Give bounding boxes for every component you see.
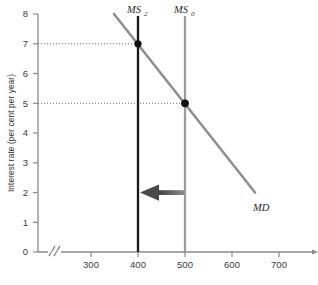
shift-arrow bbox=[140, 185, 184, 201]
guide-lines-group bbox=[38, 44, 185, 104]
y-tick-7: 7 bbox=[23, 38, 28, 49]
ms0-label: MS 0 bbox=[173, 4, 195, 18]
chart-canvas: 0 1 2 3 4 5 6 7 8 300 400 500 600 700 In bbox=[0, 0, 318, 285]
x-axis-ticks bbox=[91, 252, 279, 257]
x-tick-400: 400 bbox=[130, 259, 146, 270]
y-axis-tick-labels: 0 1 2 3 4 5 6 7 8 bbox=[23, 8, 28, 257]
y-tick-8: 8 bbox=[23, 8, 28, 19]
md-label: MD bbox=[252, 202, 270, 213]
x-axis-tick-labels: 300 400 500 600 700 bbox=[83, 259, 287, 270]
ms0-label-subscript: 0 bbox=[191, 10, 195, 18]
ms0-label-text: MS bbox=[173, 4, 189, 15]
ms2-label: MS 2 bbox=[126, 4, 148, 18]
equilibrium-point-original bbox=[181, 99, 189, 107]
x-tick-600: 600 bbox=[224, 259, 240, 270]
x-tick-300: 300 bbox=[83, 259, 99, 270]
y-tick-6: 6 bbox=[23, 68, 28, 79]
y-tick-0: 0 bbox=[23, 246, 28, 257]
x-tick-500: 500 bbox=[177, 259, 193, 270]
ms2-label-subscript: 2 bbox=[144, 10, 148, 18]
x-axis-arrowhead bbox=[312, 249, 318, 254]
ms2-label-text: MS bbox=[126, 4, 142, 15]
y-axis-ticks bbox=[33, 14, 38, 252]
axis-break-icon bbox=[48, 246, 61, 256]
y-tick-1: 1 bbox=[23, 217, 28, 228]
figure-caption-partial bbox=[4, 270, 314, 283]
y-tick-2: 2 bbox=[23, 187, 28, 198]
equilibrium-point-new bbox=[134, 40, 141, 47]
money-market-figure: 0 1 2 3 4 5 6 7 8 300 400 500 600 700 In bbox=[0, 0, 318, 285]
y-axis-title: Interest rate (per cent per year) bbox=[6, 74, 16, 192]
y-tick-5: 5 bbox=[23, 98, 28, 109]
axes-group bbox=[38, 14, 318, 255]
y-tick-4: 4 bbox=[23, 127, 28, 138]
x-tick-700: 700 bbox=[271, 259, 287, 270]
y-tick-3: 3 bbox=[23, 157, 28, 168]
